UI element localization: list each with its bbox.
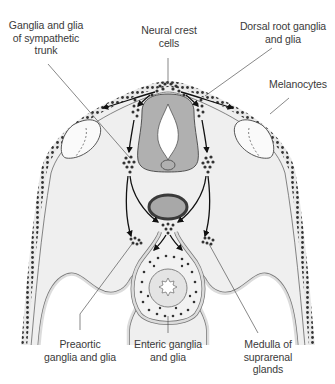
label-preaortic-ganglia: Preaortic ganglia and glia [36, 338, 124, 363]
label-neural-crest-cells: Neural crest cells [133, 24, 205, 49]
label-sympathetic-trunk: Ganglia and glia of sympathetic trunk [5, 19, 87, 57]
neural-crest-diagram [0, 0, 335, 384]
label-dorsal-root-ganglia: Dorsal root ganglia and glia [232, 20, 334, 45]
label-enteric-ganglia: Enteric ganglia and glia [126, 338, 210, 363]
label-melanocytes: Melanocytes [262, 78, 334, 91]
notochord [161, 160, 175, 170]
label-suprarenal-medulla: Medulla of suprarenal glands [232, 338, 304, 376]
aorta [149, 195, 187, 219]
